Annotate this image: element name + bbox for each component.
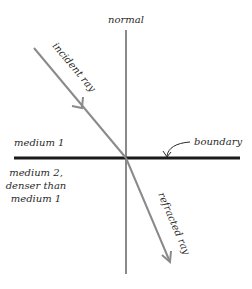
- boundary-pointer-arrow-icon: [167, 142, 190, 156]
- incident-ray-label: incident ray: [50, 40, 98, 94]
- boundary-label: boundary: [194, 136, 242, 147]
- refracted-ray-label: refracted ray: [156, 190, 192, 256]
- medium2-label-line3: medium 1: [11, 193, 61, 204]
- normal-label: normal: [108, 14, 144, 25]
- refraction-diagram: normal incident ray boundary medium 1 me…: [0, 0, 252, 289]
- medium2-label-line2: denser than: [6, 180, 67, 191]
- medium2-label-line1: medium 2,: [9, 167, 63, 178]
- medium1-label: medium 1: [14, 137, 64, 148]
